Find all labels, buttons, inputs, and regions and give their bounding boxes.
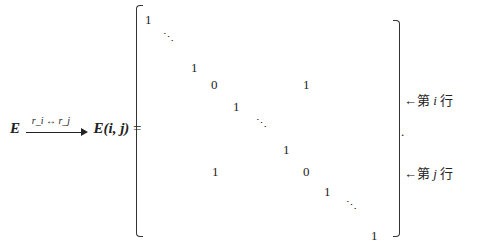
result-matrix: E(i, j) xyxy=(94,120,130,136)
equation-lhs: E r_i ↔ r_j E(i, j) = xyxy=(10,120,142,137)
left-bracket xyxy=(136,5,143,237)
matrix-e: E xyxy=(10,120,20,136)
hang-char: 行 xyxy=(440,93,453,108)
diagonal-dots: ⋱ xyxy=(163,32,176,43)
matrix-entry: 1 xyxy=(283,142,290,158)
row-var-j: j xyxy=(433,166,437,181)
matrix-entry: 1 xyxy=(303,77,310,93)
row-swap-arrow: r_i ↔ r_j xyxy=(26,123,88,137)
row-j-annotation: ←第 j 行 xyxy=(404,163,453,182)
matrix-entry: 1 xyxy=(212,164,219,180)
matrix-entry: 1 xyxy=(371,228,378,244)
matrix-entry: 1 xyxy=(145,12,152,28)
hang-char: 行 xyxy=(440,166,453,181)
period: . xyxy=(401,124,404,140)
matrix-entry: 1 xyxy=(324,184,331,200)
arrow-label: r_i ↔ r_j xyxy=(32,115,70,126)
diagonal-dots: ⋱ xyxy=(256,118,269,129)
matrix-entry: 0 xyxy=(211,77,218,93)
left-arrow-icon: ← xyxy=(404,93,417,108)
row-i-annotation: ←第 i 行 xyxy=(404,90,453,109)
row-var-i: i xyxy=(433,93,437,108)
left-arrow-icon: ← xyxy=(404,166,417,181)
matrix-entry: 1 xyxy=(191,60,198,76)
diagonal-dots: ⋱ xyxy=(346,200,359,211)
matrix-entry: 0 xyxy=(303,164,310,180)
di-char: 第 xyxy=(417,93,430,108)
matrix-entry: 1 xyxy=(233,99,240,115)
arrow-line xyxy=(26,132,82,133)
right-bracket xyxy=(393,20,400,237)
di-char: 第 xyxy=(417,166,430,181)
arrow-head-icon xyxy=(81,128,88,136)
